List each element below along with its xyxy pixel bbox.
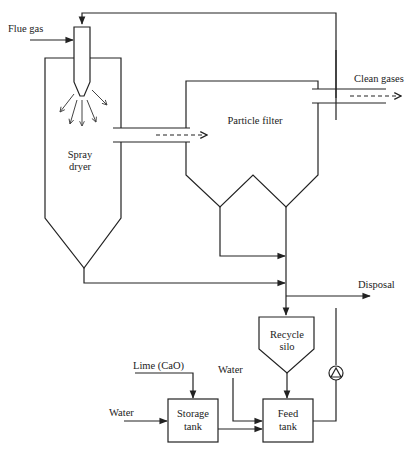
water-feed-label: Water <box>218 364 243 375</box>
recycle-silo-label-1: Recycle <box>270 329 304 340</box>
clean-gases-label: Clean gases <box>354 73 404 84</box>
particle-filter: Particle filter <box>186 81 318 207</box>
disposal-label: Disposal <box>358 279 395 290</box>
process-flow-diagram: Flue gas Spray dryer Particle filter <box>0 0 414 457</box>
connecting-duct <box>113 128 207 142</box>
feed-tank: Feed tank <box>263 399 313 442</box>
flue-gas-label: Flue gas <box>8 23 43 34</box>
pump-icon <box>313 308 343 421</box>
recycle-silo-label-2: silo <box>279 341 294 352</box>
feed-tank-label-2: tank <box>279 421 298 432</box>
water-to-feed: Water <box>218 364 262 421</box>
spray-dryer: Spray dryer <box>45 27 121 268</box>
particle-filter-label: Particle filter <box>227 115 283 126</box>
water-to-storage: Water <box>109 407 167 421</box>
spray-dryer-label-1: Spray <box>68 149 93 160</box>
water-storage-label: Water <box>109 407 134 418</box>
feed-tank-label-1: Feed <box>278 408 299 419</box>
storage-tank-label-2: tank <box>184 421 203 432</box>
lime-label: Lime (CaO) <box>133 360 185 372</box>
flue-gas-inlet: Flue gas <box>8 23 73 40</box>
storage-tank-label-1: Storage <box>177 408 209 419</box>
lime-input: Lime (CaO) <box>133 360 193 398</box>
recycle-silo: Recycle silo <box>259 317 314 398</box>
clean-gas-outlet: Clean gases <box>312 73 404 103</box>
recycle-feedback-line <box>82 13 336 120</box>
spray-dryer-label-2: dryer <box>69 161 92 172</box>
solids-collection-lines: Disposal <box>84 207 395 315</box>
